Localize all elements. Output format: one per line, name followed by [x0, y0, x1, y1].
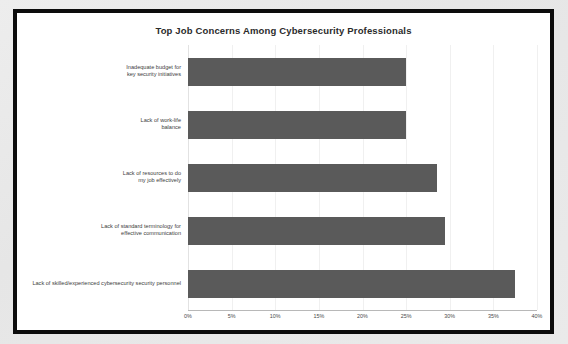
x-tick-label: 30% [444, 313, 455, 319]
category-label: Lack of resources to do my job effective… [0, 170, 181, 185]
x-tick-label: 15% [313, 313, 324, 319]
x-axis-tick-labels: 0%5%10%15%20%25%30%35%40% [188, 313, 537, 327]
bar [188, 217, 445, 245]
bar [188, 164, 437, 192]
category-label: Lack of work-life balance [0, 117, 181, 132]
bar [188, 58, 406, 86]
bar-row: Lack of skilled/experienced cybersecurit… [188, 270, 537, 298]
x-tick-label: 20% [357, 313, 368, 319]
chart-frame: Top Job Concerns Among Cybersecurity Pro… [13, 9, 554, 334]
chart-title: Top Job Concerns Among Cybersecurity Pro… [17, 25, 550, 36]
gridline-40pct [537, 45, 538, 310]
x-tick-label: 35% [488, 313, 499, 319]
bar-row: Lack of work-life balance [188, 111, 537, 139]
plot-area: Inadequate budget for key security initi… [188, 45, 537, 310]
x-tick-label: 10% [270, 313, 281, 319]
x-tick-label: 25% [401, 313, 412, 319]
x-tick-label: 5% [228, 313, 236, 319]
bar [188, 111, 406, 139]
bar-row: Lack of standard terminology for effecti… [188, 217, 537, 245]
bar-row: Inadequate budget for key security initi… [188, 58, 537, 86]
category-label: Lack of standard terminology for effecti… [0, 223, 181, 238]
bar [188, 270, 515, 298]
x-axis-line [188, 310, 537, 311]
x-tick-label: 40% [532, 313, 543, 319]
bar-row: Lack of resources to do my job effective… [188, 164, 537, 192]
category-label: Inadequate budget for key security initi… [0, 64, 181, 79]
screenshot-page: Top Job Concerns Among Cybersecurity Pro… [0, 0, 568, 344]
category-label: Lack of skilled/experienced cybersecurit… [0, 280, 181, 288]
x-tick-label: 0% [184, 313, 192, 319]
chart-canvas: Top Job Concerns Among Cybersecurity Pro… [17, 13, 550, 330]
